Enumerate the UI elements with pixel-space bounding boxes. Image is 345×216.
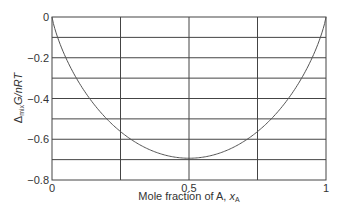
mixing-gibbs-energy-chart: 0−0.2−0.4−0.6−0.8 00.51 Mole fraction of…	[0, 0, 345, 216]
y-axis-label: ΔmixG/nRT	[12, 72, 25, 124]
y-tick-label: −0.4	[27, 93, 49, 105]
y-tick-label: −0.6	[27, 133, 49, 145]
x-axis-label: Mole fraction of A, xA	[138, 190, 240, 203]
y-tick-label: −0.8	[27, 174, 49, 186]
y-tick-label: 0	[43, 11, 49, 23]
y-axis-ticks: 0−0.2−0.4−0.6−0.8	[27, 11, 49, 186]
grid-lines	[52, 17, 326, 180]
x-tick-label: 0	[49, 182, 55, 194]
x-tick-label: 1	[323, 182, 329, 194]
y-tick-label: −0.2	[27, 52, 49, 64]
